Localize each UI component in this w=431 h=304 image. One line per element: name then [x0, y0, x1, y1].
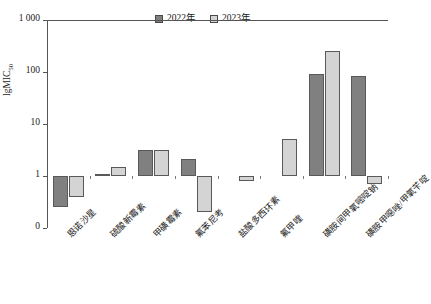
bar — [197, 176, 212, 212]
y-axis-tick-mark — [43, 176, 47, 177]
bar — [309, 74, 324, 176]
y-axis-tick-label: 1 — [35, 169, 40, 179]
y-axis-tick-mark — [43, 228, 47, 229]
y-axis-title: lgMIC50 — [2, 82, 15, 96]
x-axis-minor-tick — [132, 176, 133, 179]
y-axis-tick: 100 — [3, 72, 47, 73]
y-axis-title-subscript: 50 — [7, 64, 15, 71]
bar — [111, 167, 126, 176]
bar — [95, 174, 110, 176]
bar — [282, 139, 297, 176]
bar — [325, 51, 340, 176]
bar — [154, 150, 169, 176]
y-axis-tick-mark — [43, 20, 47, 21]
y-axis-tick-mark — [43, 124, 47, 125]
y-axis-tick-mark — [43, 72, 47, 73]
bar — [69, 176, 84, 197]
y-axis-tick-label: 0 — [35, 221, 40, 231]
y-axis-tick: 1 — [3, 176, 47, 177]
x-axis-minor-tick — [260, 176, 261, 179]
x-axis-minor-tick — [345, 176, 346, 179]
bar — [181, 159, 196, 176]
x-axis-minor-tick — [175, 176, 176, 179]
plot-area: 1 0001001010 — [47, 20, 388, 228]
bar — [138, 150, 153, 176]
y-axis-title-base: lgMIC — [2, 71, 12, 96]
y-axis-tick: 1 000 — [3, 20, 47, 21]
bar — [239, 176, 254, 181]
y-axis-tick-label: 100 — [26, 65, 40, 75]
y-axis-tick: 0 — [3, 228, 47, 229]
y-axis-tick-label: 1 000 — [19, 13, 40, 23]
bar — [53, 176, 68, 207]
x-axis-minor-tick — [218, 176, 219, 179]
x-axis-minor-tick — [388, 176, 389, 179]
bar — [351, 76, 366, 176]
y-axis-tick: 10 — [3, 124, 47, 125]
y-axis-tick-label: 10 — [31, 117, 41, 127]
baseline-axis — [47, 20, 388, 21]
x-axis-minor-tick — [90, 176, 91, 179]
y-axis-line — [47, 20, 48, 228]
x-axis-minor-tick — [303, 176, 304, 179]
